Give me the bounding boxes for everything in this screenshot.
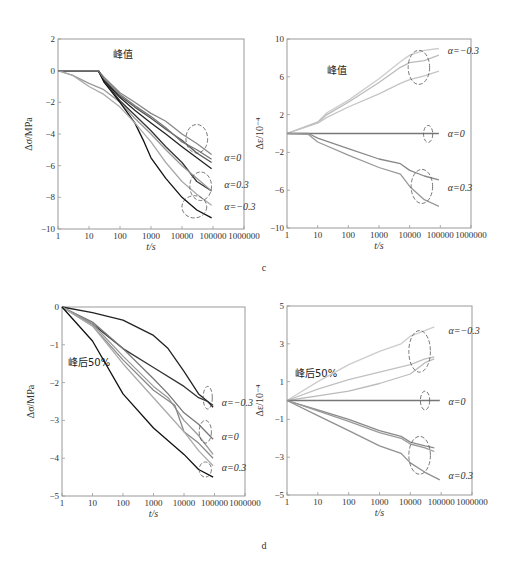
x-tick-label: 1000000 [228,231,260,241]
alpha-annotation: α=−0.3 [222,397,253,408]
chart-title: 峰值 [113,48,133,60]
x-tick-label: 1000000 [229,498,261,508]
series-line [287,134,439,207]
series-line [287,134,439,180]
x-axis-label: t/s [374,240,384,251]
x-tick-label: 10 [88,498,98,508]
y-tick-label: −4 [45,129,55,139]
alpha-annotation: α=0.3 [224,179,249,190]
alpha-annotation: α=0 [224,152,241,163]
y-tick-label: −4 [49,453,59,463]
series-line [287,71,439,133]
series-line [58,71,212,163]
chart-d-left: 11010010001000010000010000000−1−2−3−4−5t… [25,302,261,519]
series-line [58,71,212,155]
y-tick-label: 3 [280,339,285,349]
series-line [58,71,212,169]
x-tick-label: 1 [56,231,61,241]
y-tick-label: −1 [274,414,284,424]
y-axis-label: Δσ/MPa [25,384,36,418]
x-tick-label: 100 [342,497,356,507]
alpha-annotation: α=−0.3 [449,325,480,336]
y-tick-label: −6 [274,185,284,195]
alpha-annotation: α=−0.3 [448,45,479,56]
x-tick-label: 100000 [427,230,455,240]
series-line [58,71,212,218]
alpha-annotation: α=0.3 [449,470,474,481]
y-tick-label: 0 [55,302,60,312]
series-line [287,401,434,452]
y-tick-label: −3 [274,452,284,462]
series-line [58,71,212,191]
highlight-ellipse [408,50,429,84]
alpha-annotation: α=0 [449,396,466,407]
panel-letter-d: d [262,540,267,551]
series-line [287,401,440,480]
y-tick-label: −3 [49,415,59,425]
alpha-annotation: α=−0.3 [224,201,255,212]
highlight-ellipse [409,331,431,373]
chart-d-right: 1101001000100001000001000000531−1−3−5t/s… [254,301,488,518]
chart-title: 峰后50% [295,368,337,379]
x-tick-label: 1000 [370,230,389,240]
y-tick-label: −6 [45,161,55,171]
highlight-ellipse [203,386,212,409]
x-axis-label: t/s [149,508,159,519]
chart-c-right: 11010010001000010000010000001062−2−6−10t… [254,34,487,251]
y-tick-label: 1 [280,377,285,387]
y-axis-label: Δε/10⁻⁴ [254,117,265,149]
y-tick-label: −1 [49,340,59,350]
y-tick-label: 10 [275,34,285,44]
series-line [62,307,213,458]
x-tick-label: 10000 [398,230,421,240]
panel-letter-c: c [262,262,267,273]
alpha-annotation: α=0.3 [222,462,247,473]
x-tick-label: 1000 [371,497,390,507]
y-tick-label: −10 [270,223,285,233]
x-tick-label: 10 [85,231,95,241]
series-line [62,307,213,466]
series-line [287,359,434,401]
y-tick-label: 2 [51,34,56,44]
x-tick-label: 10000 [399,497,422,507]
alpha-annotation: α=0 [222,431,239,442]
x-axis-label: t/s [146,241,156,252]
highlight-ellipse [190,172,212,201]
x-tick-label: 100000 [200,231,228,241]
y-tick-label: −2 [49,378,59,388]
y-tick-label: 6 [280,72,285,82]
y-tick-label: −2 [45,97,55,107]
x-tick-label: 1000 [145,498,164,508]
x-tick-label: 100 [342,230,356,240]
x-tick-label: 1000 [142,231,161,241]
x-tick-label: 10000 [173,498,196,508]
x-tick-label: 10 [313,497,323,507]
series-line [58,71,212,191]
y-tick-label: −8 [45,192,55,202]
x-tick-label: 1 [285,497,290,507]
x-tick-label: 100000 [201,498,229,508]
y-tick-label: 0 [51,66,56,76]
y-axis-label: Δσ/MPa [23,117,34,151]
x-tick-label: 1000000 [456,497,488,507]
x-tick-label: 100 [113,231,127,241]
x-tick-label: 1 [60,498,65,508]
y-tick-label: 5 [280,301,285,311]
x-tick-label: 100 [116,498,130,508]
x-tick-label: 1000000 [455,230,487,240]
x-tick-label: 10000 [171,231,194,241]
alpha-annotation: α=0.3 [448,182,473,193]
chart-c-left: 110100100010000100000100000020−2−4−6−8−1… [23,34,260,252]
figure: 110100100010000100000100000020−2−4−6−8−1… [0,0,513,571]
x-axis-label: t/s [375,507,385,518]
alpha-annotation: α=0 [448,128,465,139]
chart-title: 峰值 [327,64,347,76]
y-tick-label: 2 [280,110,285,120]
y-axis-label: Δε/10⁻⁴ [254,384,265,416]
x-tick-label: 100000 [428,497,456,507]
y-tick-label: −10 [41,224,56,234]
x-tick-label: 1 [285,230,290,240]
y-tick-label: −5 [49,491,59,501]
y-tick-label: −2 [274,147,284,157]
series-line [287,55,439,133]
